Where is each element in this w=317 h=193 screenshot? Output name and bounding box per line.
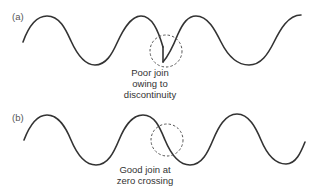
waveform-join-diagram: (a) Poor join owing to discontinuity (b)… — [0, 0, 317, 193]
panel-b-caption-line-1: Good join at — [119, 164, 171, 175]
panel-a-caption-line-2: owing to — [132, 78, 167, 89]
panel-b: (b) Good join at zero crossing — [12, 112, 305, 186]
panel-a-label: (a) — [12, 11, 24, 22]
panel-b-join-circle — [151, 124, 183, 156]
panel-a-caption-line-1: Poor join — [131, 67, 169, 78]
panel-a-wave-segment-2 — [163, 15, 301, 65]
panel-b-wave — [24, 114, 305, 165]
panel-a: (a) Poor join owing to discontinuity — [12, 11, 301, 100]
panel-b-label: (b) — [12, 112, 24, 123]
panel-a-wave-segment-1 — [23, 16, 163, 65]
panel-a-join-circle — [150, 35, 182, 67]
panel-b-caption-line-2: zero crossing — [117, 175, 174, 186]
panel-a-caption-line-3: discontinuity — [124, 89, 177, 100]
